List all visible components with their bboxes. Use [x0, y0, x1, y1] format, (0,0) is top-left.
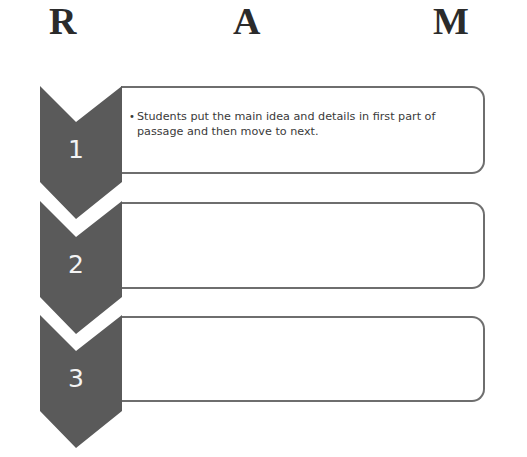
- step-1-number: 1: [56, 135, 96, 164]
- step-3-number: 3: [56, 364, 96, 393]
- step-2-number: 2: [56, 250, 96, 279]
